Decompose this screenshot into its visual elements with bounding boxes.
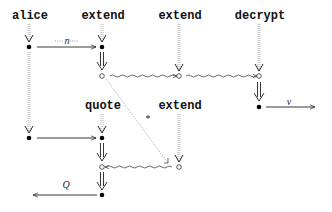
strand-entry-arrowheads (25, 35, 263, 162)
protocol-diagram: alice extend extend decrypt quote extend… (0, 0, 332, 212)
label-extend-1: extend (81, 10, 124, 22)
label-extend-3: extend (158, 100, 201, 112)
node-decrypt-2 (257, 105, 262, 110)
node-quote-2 (100, 165, 105, 170)
node-alice-1 (27, 45, 32, 50)
node-extend1-1 (100, 45, 105, 50)
edge-label-v: v (287, 97, 291, 107)
nodes (27, 45, 262, 198)
node-alice-2 (27, 136, 32, 141)
node-extend1-2 (100, 74, 105, 79)
label-decrypt: decrypt (235, 10, 285, 22)
label-quote: quote (85, 100, 121, 112)
node-extend3-1 (177, 165, 182, 170)
label-alice: alice (12, 10, 48, 22)
node-decrypt-1 (257, 74, 262, 79)
edge-label-star: * (146, 114, 151, 124)
edge-label-Q: Q (62, 180, 69, 190)
message-arrows (33, 47, 315, 195)
node-quote-3 (100, 193, 105, 198)
dotted-diagonal-edge (106, 79, 168, 163)
label-extend-2: extend (158, 10, 201, 22)
strand-dotted-lines (28, 24, 260, 160)
node-quote-1 (100, 136, 105, 141)
edge-label-n: n (65, 36, 70, 46)
strand-succession-arrows (97, 52, 264, 190)
node-extend2-1 (177, 74, 182, 79)
wavy-arrows (105, 75, 257, 168)
